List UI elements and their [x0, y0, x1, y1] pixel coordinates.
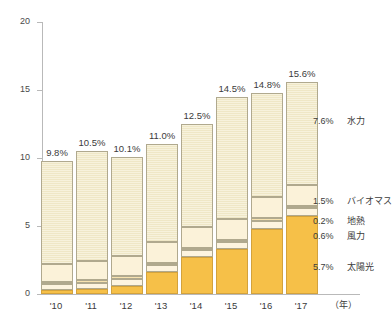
- y-tick-label-0: 0: [4, 289, 30, 298]
- bar-2011[interactable]: [76, 22, 108, 294]
- bar-segment-地熱[interactable]: [251, 218, 283, 221]
- bar-total-label-2010: 9.8%: [34, 148, 80, 158]
- bar-segment-太陽光[interactable]: [251, 229, 283, 294]
- bar-segment-地熱[interactable]: [41, 282, 73, 285]
- bar-segment-バイオマス[interactable]: [76, 261, 108, 280]
- callout-solar: 5.7%太陽光: [313, 262, 374, 272]
- bar-segment-水力[interactable]: [41, 161, 73, 264]
- callout-geothermal-pct: 0.2%: [313, 216, 343, 226]
- bar-segment-水力[interactable]: [76, 151, 108, 261]
- y-tick-label-20: 20: [4, 17, 30, 26]
- x-tick-label-2012: '12: [106, 300, 146, 311]
- bar-total-label-2013: 11.0%: [139, 131, 185, 141]
- x-axis-line: [42, 294, 360, 295]
- callout-geothermal-name: 地熱: [347, 216, 365, 226]
- bar-segment-地熱[interactable]: [76, 280, 108, 283]
- callout-biomass-name: バイオマス: [347, 196, 392, 206]
- bar-segment-バイオマス[interactable]: [216, 219, 248, 239]
- x-tick-label-2016: '16: [246, 300, 286, 311]
- callout-hydro-name: 水力: [347, 116, 365, 126]
- bar-total-label-2014: 12.5%: [174, 111, 220, 121]
- bar-segment-風力[interactable]: [181, 250, 213, 257]
- bar-segment-水力[interactable]: [286, 82, 318, 185]
- bar-2013[interactable]: [146, 22, 178, 294]
- x-tick-label-2013: '13: [141, 300, 181, 311]
- bar-segment-太陽光[interactable]: [216, 249, 248, 294]
- bar-segment-風力[interactable]: [251, 221, 283, 229]
- y-tick-label-5: 5: [4, 221, 30, 230]
- callout-biomass-pct: 1.5%: [313, 196, 343, 206]
- bar-segment-バイオマス[interactable]: [181, 227, 213, 247]
- x-axis-unit-label: （年）: [330, 300, 372, 311]
- bar-segment-風力[interactable]: [146, 265, 178, 272]
- y-tick-mark-0: [37, 294, 42, 295]
- bar-2012[interactable]: [111, 22, 143, 294]
- callout-wind-name: 風力: [347, 231, 365, 241]
- bar-segment-水力[interactable]: [216, 97, 248, 219]
- bar-segment-風力[interactable]: [216, 242, 248, 249]
- bar-total-label-2012: 10.1%: [104, 144, 150, 154]
- callout-biomass: 1.5%バイオマス: [313, 196, 392, 206]
- x-tick-label-2017: '17: [281, 300, 321, 311]
- x-tick-label-2011: '11: [71, 300, 111, 311]
- bar-segment-風力[interactable]: [41, 284, 73, 289]
- bar-segment-地熱[interactable]: [146, 263, 178, 266]
- callout-solar-pct: 5.7%: [313, 262, 343, 272]
- callout-hydro: 7.6%水力: [313, 116, 365, 126]
- bar-segment-風力[interactable]: [76, 283, 108, 288]
- callout-wind-pct: 0.6%: [313, 231, 343, 241]
- bar-segment-バイオマス[interactable]: [146, 242, 178, 262]
- bar-segment-地熱[interactable]: [216, 240, 248, 243]
- callout-hydro-pct: 7.6%: [313, 116, 343, 126]
- bar-segment-地熱[interactable]: [181, 248, 213, 251]
- bar-2016[interactable]: [251, 22, 283, 294]
- bar-segment-バイオマス[interactable]: [251, 197, 283, 217]
- bar-2010[interactable]: [41, 22, 73, 294]
- bar-segment-太陽光[interactable]: [41, 290, 73, 294]
- bar-segment-太陽光[interactable]: [286, 216, 318, 294]
- bar-segment-地熱[interactable]: [111, 276, 143, 279]
- bar-segment-太陽光[interactable]: [181, 257, 213, 294]
- bar-segment-太陽光[interactable]: [111, 286, 143, 294]
- bar-segment-水力[interactable]: [181, 124, 213, 227]
- x-tick-label-2015: '15: [211, 300, 251, 311]
- y-tick-label-15: 15: [4, 85, 30, 94]
- bar-total-label-2017: 15.6%: [279, 69, 325, 79]
- bar-2015[interactable]: [216, 22, 248, 294]
- x-tick-label-2014: '14: [176, 300, 216, 311]
- bar-total-label-2016: 14.8%: [244, 80, 290, 90]
- y-tick-label-10: 10: [4, 153, 30, 162]
- bar-segment-太陽光[interactable]: [146, 272, 178, 294]
- bar-segment-バイオマス[interactable]: [41, 264, 73, 282]
- callout-solar-name: 太陽光: [347, 262, 374, 272]
- bar-segment-太陽光[interactable]: [76, 289, 108, 294]
- bar-segment-水力[interactable]: [111, 157, 143, 256]
- bar-2014[interactable]: [181, 22, 213, 294]
- bar-segment-地熱[interactable]: [286, 206, 318, 209]
- callout-geothermal: 0.2%地熱: [313, 216, 365, 226]
- bar-segment-水力[interactable]: [251, 93, 283, 198]
- x-tick-label-2010: '10: [36, 300, 76, 311]
- bar-segment-バイオマス[interactable]: [111, 256, 143, 276]
- bar-segment-水力[interactable]: [146, 144, 178, 242]
- bar-2017[interactable]: [286, 22, 318, 294]
- callout-wind: 0.6%風力: [313, 231, 365, 241]
- bar-segment-風力[interactable]: [111, 279, 143, 286]
